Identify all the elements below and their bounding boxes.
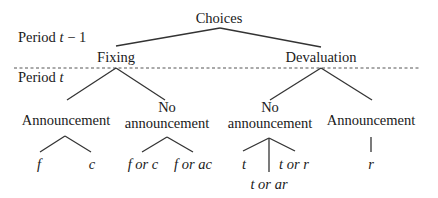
edge-fix-ann-c [65,136,91,152]
leaf-f: f [37,156,41,172]
edge-choices-devaluation [220,28,321,47]
leaf-t: t [242,156,246,172]
period-variable: t [59,69,63,85]
period-word: Period [18,29,59,45]
edge-fix-noann-forac [167,137,193,152]
node-devaluation-no-announcement: No announcement [228,99,313,131]
edge-fixing-no-announcement [116,68,165,100]
edge-choices-fixing [116,28,220,46]
edge-dev-noann-t [243,138,269,151]
period-current-label: Period t [18,69,64,85]
node-label-line2: announcement [228,115,313,131]
period-offset: − 1 [64,29,87,45]
leaf-f-or-c: f or c [128,156,159,172]
node-label-line1: No [228,99,313,115]
node-choices: Choices [196,10,243,26]
leaf-t-or-r: t or r [279,156,309,172]
edge-dev-noann-torr [269,138,295,151]
period-previous-label: Period t − 1 [18,29,86,45]
node-devaluation: Devaluation [286,49,357,65]
leaf-c: c [89,156,95,172]
node-fixing-announcement: Announcement [22,112,111,128]
node-devaluation-announcement: Announcement [327,112,416,128]
edge-fixing-announcement [67,68,116,100]
node-label-line2: announcement [125,115,210,131]
leaf-f-or-ac: f or ac [174,156,212,172]
period-word: Period [18,69,59,85]
edge-fix-ann-f [40,136,65,152]
node-fixing-no-announcement: No announcement [125,99,210,131]
edge-fix-noann-forc [142,137,167,152]
leaf-t-or-ar: t or ar [250,176,287,192]
node-label-line1: No [125,99,210,115]
node-fixing: Fixing [97,49,135,65]
edge-devaluation-no-announcement [270,68,321,100]
leaf-r: r [368,156,374,172]
edge-devaluation-announcement [321,68,372,100]
